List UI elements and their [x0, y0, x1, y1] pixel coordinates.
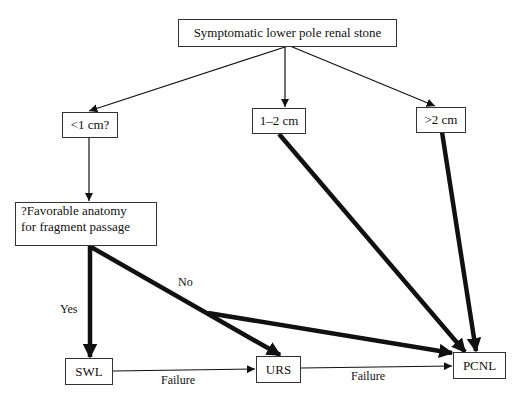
edge-urs-to-pcnl — [301, 366, 452, 368]
edge-no-to-urs — [91, 247, 280, 355]
size-1-2-node: 1–2 cm — [252, 108, 306, 134]
edge-gt2-to-pcnl — [442, 132, 476, 351]
size-1-2-label: 1–2 cm — [260, 113, 299, 129]
pcnl-label: PCNL — [463, 358, 496, 374]
edge-label-failure-2: Failure — [351, 369, 385, 384]
anatomy-label-line1: ?Favorable anatomy — [21, 203, 127, 219]
urs-label: URS — [266, 362, 291, 378]
edge-root-to-lt1 — [89, 46, 288, 111]
edge-label-yes: Yes — [60, 302, 77, 317]
swl-label: SWL — [75, 364, 102, 380]
swl-node: SWL — [65, 358, 113, 385]
edge-swl-to-urs — [113, 369, 255, 371]
edge-label-no: No — [178, 275, 193, 290]
edge-mid-to-pcnl — [279, 134, 465, 352]
edge-root-to-gt2 — [290, 46, 435, 106]
anatomy-node: ?Favorable anatomy for fragment passage — [15, 202, 157, 246]
root-node: Symptomatic lower pole renal stone — [178, 19, 397, 47]
size-lt1-label: <1 cm? — [71, 117, 110, 133]
size-lt1-node: <1 cm? — [62, 112, 118, 138]
urs-node: URS — [256, 356, 301, 383]
flowchart-edges — [0, 0, 514, 399]
pcnl-node: PCNL — [453, 352, 506, 379]
anatomy-label-line2: for fragment passage — [21, 219, 130, 235]
size-gt2-node: >2 cm — [416, 107, 466, 133]
edge-label-failure-1: Failure — [161, 373, 195, 388]
root-node-label: Symptomatic lower pole renal stone — [194, 25, 382, 41]
size-gt2-label: >2 cm — [425, 112, 458, 128]
